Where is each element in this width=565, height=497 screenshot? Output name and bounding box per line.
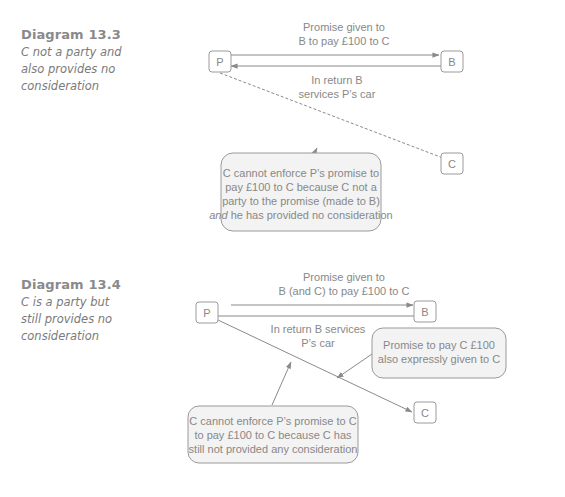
diagram-13-3: Promise given to B to pay £100 to C In r… [209,21,463,231]
d2-note-line-3: still not provided any consideration [189,443,358,455]
d1-node-c: C [441,153,463,174]
d1-note-line-1: C cannot enforce P’s promise to [223,167,379,179]
d1-explanation-note: C cannot enforce P’s promise to pay £100… [209,153,392,231]
d2-side-note: Promise to pay C £100 also expressly giv… [372,328,506,378]
d1-promise-label-1: Promise given to [303,21,385,33]
d2-node-b-label: B [421,306,428,318]
d2-node-p: P [196,302,218,323]
d2-promise-label-1: Promise given to [303,271,385,283]
d1-node-b: B [441,51,463,72]
d2-side-note-line-2: also expressly given to C [378,353,500,365]
d2-node-p-label: P [203,307,210,319]
d2-explanation-note: C cannot enforce P’s promise to C to pay… [188,406,358,463]
d2-node-c: C [414,402,436,423]
d2-return-label-2: P’s car [301,337,335,349]
d1-node-c-label: C [448,158,456,170]
diagram-13-4: Promise given to B (and C) to pay £100 t… [188,271,506,463]
d2-node-b: B [414,301,436,322]
d2-promise-label-2: B (and C) to pay £100 to C [279,285,410,297]
d1-promise-label-2: B to pay £100 to C [298,35,389,47]
d1-return-label-1: In return B [311,74,362,86]
d1-node-p-label: P [216,56,223,68]
d1-return-label-2: services P’s car [299,88,376,100]
d1-node-b-label: B [448,56,455,68]
d2-return-label-1: In return B services [271,323,366,335]
d2-note-pointer-arrow [272,362,291,405]
d1-note-line-3: party to the promise (made to B) [222,195,380,207]
d2-side-note-line-1: Promise to pay C £100 [383,339,495,351]
d2-note-line-1: C cannot enforce P’s promise to C [189,415,356,427]
d2-note-line-2: to pay £100 to C because C has [194,429,352,441]
d1-node-p: P [209,51,231,72]
d1-note-line-2: pay £100 to C because C not a [225,181,378,193]
d1-note-line-4: and he has provided no consideration [209,209,392,221]
diagrams-canvas: Promise given to B to pay £100 to C In r… [0,0,565,497]
d2-side-note-pointer-arrow [337,354,372,378]
d2-node-c-label: C [421,407,429,419]
